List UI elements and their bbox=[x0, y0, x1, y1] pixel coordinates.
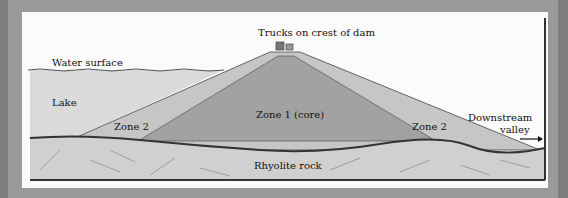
zone2-right-label: Zone 2 bbox=[412, 122, 447, 132]
water-surface-label: Water surface bbox=[52, 58, 123, 68]
zone1-core-label: Zone 1 (core) bbox=[256, 110, 324, 120]
rhyolite-rock-label: Rhyolite rock bbox=[254, 161, 322, 171]
zone2-left-label: Zone 2 bbox=[114, 122, 149, 132]
lake-label: Lake bbox=[52, 98, 77, 108]
trucks-label: Trucks on crest of dam bbox=[258, 28, 375, 38]
downstream-label: Downstream bbox=[468, 113, 532, 123]
valley-label: valley bbox=[500, 125, 530, 135]
trucks-icon bbox=[276, 42, 293, 50]
